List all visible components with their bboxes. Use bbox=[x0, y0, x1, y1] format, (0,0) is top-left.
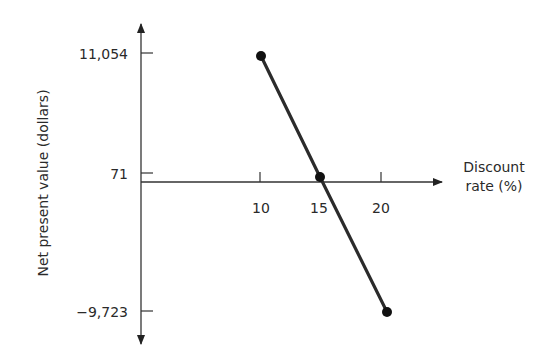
npv-chart: 11,054 71 −9,723 10 15 20 Discount rate … bbox=[0, 0, 555, 358]
x-tick-label: 10 bbox=[252, 200, 270, 216]
y-tick-label: −9,723 bbox=[76, 304, 128, 320]
x-axis-label-line1: Discount bbox=[463, 159, 525, 175]
x-axis-label-line2: rate (%) bbox=[465, 178, 522, 194]
data-point bbox=[256, 51, 266, 61]
x-tick-label: 15 bbox=[310, 200, 328, 216]
x-tick-label: 20 bbox=[372, 200, 390, 216]
y-tick-label: 11,054 bbox=[79, 46, 128, 62]
data-point bbox=[315, 172, 325, 182]
npv-line bbox=[261, 56, 387, 312]
data-point bbox=[382, 307, 392, 317]
y-axis-label: Net present value (dollars) bbox=[35, 89, 51, 276]
y-tick-label: 71 bbox=[110, 166, 128, 182]
